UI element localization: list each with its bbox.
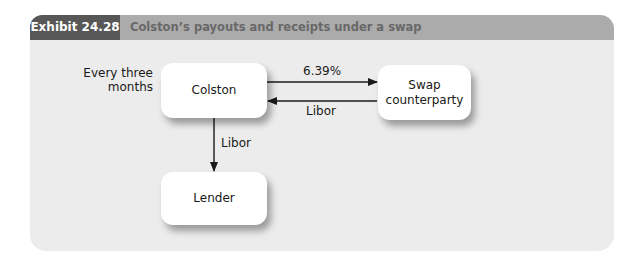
node-swap-label-line-1: Swap [386, 78, 464, 93]
edge-label-libor-payment: Libor [221, 136, 251, 150]
arrows-layer [0, 0, 644, 265]
frequency-line-2: months [70, 80, 153, 94]
node-colston-label: Colston [192, 83, 237, 98]
node-lender: Lender [161, 172, 267, 225]
frequency-line-1: Every three [70, 66, 153, 80]
node-colston: Colston [161, 63, 267, 118]
node-lender-label: Lender [193, 191, 234, 206]
node-swap-counterparty: Swap counterparty [378, 65, 471, 120]
edge-label-fixed-rate: 6.39% [303, 64, 341, 78]
edge-label-libor-receipt: Libor [306, 104, 336, 118]
node-swap-label-line-2: counterparty [386, 93, 464, 108]
frequency-annotation: Every three months [70, 66, 153, 94]
